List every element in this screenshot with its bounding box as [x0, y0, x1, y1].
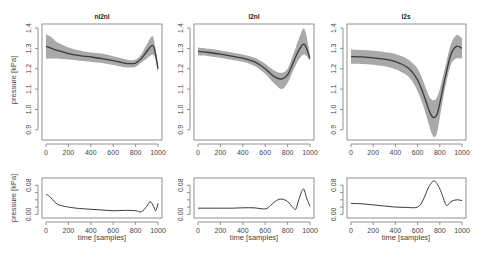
y-tick-label: 0.9	[330, 125, 337, 135]
sd-panel-l2s: time [samples] 020040060080010000.000.08	[330, 178, 470, 242]
x-tick-label: 1000	[454, 227, 470, 234]
confidence-band	[46, 34, 158, 73]
x-axis-label: time [samples]	[382, 233, 430, 242]
y-tick-label: 1.2	[25, 64, 32, 74]
plot-frame	[347, 178, 466, 218]
x-tick-label: 400	[85, 149, 97, 156]
y-tick-label: 0.00	[330, 207, 337, 221]
x-tick-label: 200	[63, 149, 75, 156]
y-tick-label: 0.00	[177, 207, 184, 221]
x-tick-label: 800	[282, 227, 294, 234]
x-tick-label: 800	[434, 149, 446, 156]
y-tick-label: 1.1	[177, 84, 184, 94]
y-tick-label: 0.00	[25, 207, 32, 221]
y-tick-label: 1.0	[177, 105, 184, 115]
x-tick-label: 600	[259, 227, 271, 234]
x-tick-label: 200	[215, 149, 227, 156]
y-tick-label: 1.2	[177, 64, 184, 74]
panel-l2s: l2s 020040060080010000.91.01.11.21.31.4	[330, 13, 470, 156]
y-axis-label: pressure [kPa]	[9, 174, 18, 222]
panel-l2nl: l2nl 020040060080010000.91.01.11.21.31.4	[177, 13, 318, 156]
x-tick-label: 1000	[302, 227, 318, 234]
plot-frame	[194, 178, 314, 218]
x-tick-label: 0	[349, 227, 353, 234]
y-tick-label: 1.4	[330, 23, 337, 33]
x-tick-label: 400	[85, 227, 97, 234]
x-tick-label: 1000	[302, 149, 318, 156]
x-tick-label: 400	[237, 227, 249, 234]
x-tick-label: 1000	[150, 227, 166, 234]
sd-line	[198, 189, 310, 210]
panel-title: l2s	[401, 13, 410, 20]
x-tick-label: 800	[282, 149, 294, 156]
sd-line	[351, 181, 462, 208]
panel-title: nl2nl	[94, 13, 109, 20]
confidence-band	[198, 29, 310, 90]
x-tick-label: 800	[130, 227, 142, 234]
y-tick-label: 1.1	[330, 84, 337, 94]
x-tick-label: 400	[390, 149, 402, 156]
y-tick-label: 1.3	[25, 43, 32, 53]
y-tick-label: 1.2	[330, 64, 337, 74]
x-tick-label: 800	[130, 149, 142, 156]
x-axis-label: time [samples]	[230, 233, 278, 242]
sd-panel-nl2nl: pressure [kPa] time [samples] 0200400600…	[9, 174, 166, 242]
x-tick-label: 200	[215, 227, 227, 234]
x-tick-label: 1000	[454, 149, 470, 156]
y-tick-label: 1.1	[25, 84, 32, 94]
x-tick-label: 400	[237, 149, 249, 156]
x-tick-label: 0	[44, 227, 48, 234]
plot-frame	[42, 178, 162, 218]
x-tick-label: 200	[367, 149, 379, 156]
x-tick-label: 200	[63, 227, 75, 234]
x-tick-label: 0	[44, 149, 48, 156]
x-tick-label: 1000	[150, 149, 166, 156]
y-tick-label: 0.9	[177, 125, 184, 135]
mean-line	[198, 44, 310, 79]
y-tick-label: 1.0	[25, 105, 32, 115]
y-tick-label: 0.08	[177, 178, 184, 192]
x-tick-label: 0	[196, 149, 200, 156]
x-tick-label: 0	[196, 227, 200, 234]
x-tick-label: 400	[390, 227, 402, 234]
y-tick-label: 0.9	[25, 125, 32, 135]
y-tick-label: 1.4	[25, 23, 32, 33]
panel-nl2nl: nl2nl pressure [kPa] 020040060080010000.…	[9, 13, 166, 156]
y-tick-label: 1.4	[177, 23, 184, 33]
x-tick-label: 600	[107, 149, 119, 156]
x-tick-label: 600	[259, 149, 271, 156]
plot-frame	[194, 24, 314, 140]
x-tick-label: 800	[434, 227, 446, 234]
y-tick-label: 1.0	[330, 105, 337, 115]
y-tick-label: 0.08	[25, 178, 32, 192]
sd-line	[46, 194, 158, 212]
figure: nl2nl pressure [kPa] 020040060080010000.…	[0, 0, 484, 257]
plot-frame	[42, 24, 162, 140]
confidence-band	[351, 35, 462, 137]
x-axis-label: time [samples]	[78, 233, 126, 242]
panel-title: l2nl	[248, 13, 259, 20]
x-tick-label: 600	[107, 227, 119, 234]
x-tick-label: 600	[412, 149, 424, 156]
y-axis-label: pressure [kPa]	[9, 56, 18, 104]
x-tick-label: 200	[367, 227, 379, 234]
sd-panel-l2nl: time [samples] 020040060080010000.000.08	[177, 178, 318, 242]
plot-frame	[347, 24, 466, 140]
y-tick-label: 1.3	[177, 43, 184, 53]
x-tick-label: 600	[412, 227, 424, 234]
y-tick-label: 0.08	[330, 178, 337, 192]
y-tick-label: 1.3	[330, 43, 337, 53]
x-tick-label: 0	[349, 149, 353, 156]
